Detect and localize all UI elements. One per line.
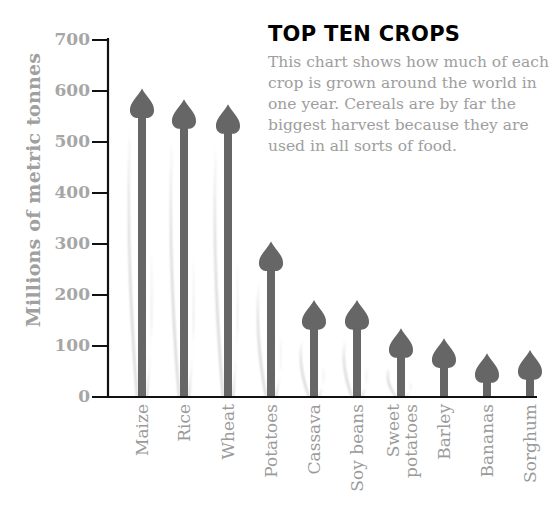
arrow-bar-soy-beans (343, 300, 369, 397)
arrow-bar-cassava (300, 300, 326, 397)
arrow-bar-wheat (214, 104, 240, 397)
category-label-maize: Maize (127, 404, 157, 500)
category-label-sorghum: Sorghum (515, 404, 545, 500)
category-label-rice: Rice (169, 404, 199, 500)
arrow-bars (128, 88, 542, 397)
category-label-bananas: Bananas (472, 404, 502, 500)
arrow-bar-bananas (475, 353, 499, 397)
arrow-bar-barley (432, 338, 456, 397)
category-label-potatoes: Potatoes (256, 404, 286, 500)
arrow-bar-sorghum (518, 350, 542, 397)
y-ticks (92, 40, 108, 346)
category-label-barley: Barley (429, 404, 459, 500)
category-label-wheat: Wheat (213, 404, 243, 500)
arrow-bar-potatoes (257, 241, 283, 397)
arrow-bar-sweet-potatoes (387, 328, 413, 397)
arrow-bar-rice (170, 99, 196, 397)
arrow-bar-maize (128, 88, 154, 397)
category-label-cassava: Cassava (299, 404, 329, 500)
category-label-potatoes-2: potatoes (396, 404, 426, 500)
category-label-soy-beans: Soy beans (342, 404, 372, 500)
